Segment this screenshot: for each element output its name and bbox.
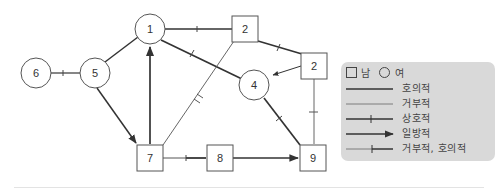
legend-label-mutual: 상호적 (402, 111, 431, 127)
node-4-label: 4 (251, 79, 257, 91)
node-2-top[interactable]: 2 (232, 16, 258, 42)
legend-label-one-way: 일방적 (402, 126, 431, 142)
node-2-right-label: 2 (311, 60, 317, 72)
edge-2a-2b (258, 41, 302, 54)
edge-2b-4 (273, 66, 301, 75)
node-8-label: 8 (217, 152, 223, 164)
legend-item-one-way: 일방적 (341, 126, 495, 142)
edge-2b-9 (309, 79, 318, 144)
edges (51, 26, 318, 161)
node-7-label: 7 (147, 152, 153, 164)
node-4[interactable]: 4 (239, 70, 269, 100)
square-icon (346, 67, 357, 78)
legend-label-rejecting: 거부적 (402, 96, 431, 112)
edge-4-9 (264, 98, 300, 145)
legend-label-favorable: 호의적 (402, 81, 431, 97)
favorable-line-icon (341, 81, 401, 97)
one-way-arrow-icon (341, 126, 401, 142)
legend-item-favorable: 호의적 (341, 81, 495, 97)
legend-male-label: 남 (361, 68, 370, 79)
edge-6-5 (51, 70, 80, 76)
node-5[interactable]: 5 (80, 58, 110, 88)
node-2-right[interactable]: 2 (301, 53, 327, 79)
edge-1-2a (165, 26, 232, 32)
node-5-label: 5 (92, 67, 98, 79)
legend-item-rejecting-favorable: 거부적, 호의적 (341, 141, 495, 157)
nodes: 6 5 1 2 2 4 7 8 (21, 14, 327, 171)
legend-item-rejecting: 거부적 (341, 96, 495, 112)
node-9[interactable]: 9 (300, 145, 326, 171)
node-1-label: 1 (147, 23, 153, 35)
node-7[interactable]: 7 (137, 145, 163, 171)
circle-icon (379, 67, 390, 78)
node-6-label: 6 (33, 67, 39, 79)
bottom-divider (14, 187, 484, 188)
node-6[interactable]: 6 (21, 58, 51, 88)
rejecting-favorable-line-icon (341, 141, 401, 157)
node-1[interactable]: 1 (135, 14, 165, 44)
legend-female-label: 여 (395, 68, 404, 79)
legend: 남 여 호의적 거부적 상호적 일방적 거부적, 호의적 (341, 62, 495, 161)
node-8[interactable]: 8 (207, 145, 233, 171)
node-9-label: 9 (310, 152, 316, 164)
edge-7-2a (163, 41, 234, 145)
edge-5-1 (105, 37, 138, 62)
legend-item-mutual: 상호적 (341, 111, 495, 127)
node-2-top-label: 2 (242, 23, 248, 35)
legend-gender-key: 남 여 (346, 66, 404, 82)
edge-5-7 (97, 88, 136, 143)
edge-1-4 (161, 40, 242, 79)
mutual-line-icon (341, 111, 401, 127)
edge-7-8 (163, 155, 206, 161)
rejecting-line-icon (341, 96, 401, 112)
legend-label-rejecting-favorable: 거부적, 호의적 (402, 141, 466, 157)
